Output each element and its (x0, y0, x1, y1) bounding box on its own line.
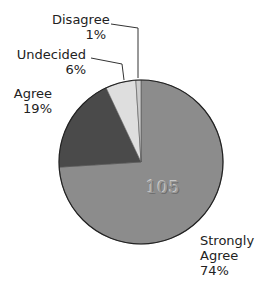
label-undecided-pct: 6% (10, 62, 86, 77)
label-undecided-name: Undecided (10, 47, 86, 62)
label-strongly-agree-line2: Agree (200, 248, 254, 263)
label-undecided: Undecided 6% (10, 47, 86, 77)
label-strongly-agree-pct: 74% (200, 263, 254, 278)
label-agree: Agree 19% (10, 86, 52, 116)
leader-line-undecided (91, 58, 124, 80)
embossed-value: 105 (146, 177, 180, 197)
label-disagree: Disagree 1% (52, 12, 106, 42)
label-strongly-agree: Strongly Agree 74% (200, 233, 254, 278)
leader-line-disagree (111, 24, 138, 78)
pie-slices (59, 80, 223, 244)
label-agree-name: Agree (10, 86, 52, 101)
label-disagree-pct: 1% (52, 27, 106, 42)
label-agree-pct: 19% (10, 101, 52, 116)
label-strongly-agree-line1: Strongly (200, 233, 254, 248)
label-disagree-name: Disagree (52, 12, 106, 27)
